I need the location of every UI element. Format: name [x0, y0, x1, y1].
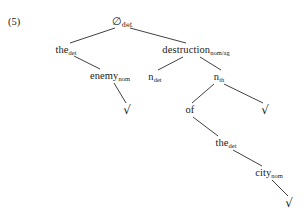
tree-node-ndet: ndet	[148, 72, 161, 83]
tree-node-city: citynom	[255, 168, 283, 179]
tree-edges-canvas	[0, 0, 305, 217]
node-base-text: city	[255, 167, 271, 178]
tree-node-nth: nth	[214, 72, 224, 83]
node-base-text: of	[186, 104, 195, 115]
tree-edge	[192, 84, 214, 103]
node-base-text: the	[215, 137, 228, 148]
tree-edge	[233, 150, 262, 166]
node-base-text: √	[285, 196, 293, 210]
tree-node-root: ∅det	[112, 16, 133, 27]
node-base-text: √	[261, 103, 269, 117]
tree-node-destruction: destructionnom/ag	[162, 45, 229, 56]
node-subscript-text: det	[154, 76, 162, 83]
tree-edge	[70, 28, 115, 43]
tree-edge	[130, 28, 186, 43]
node-base-text: √	[123, 103, 131, 117]
syntax-tree-figure: (5) ∅detthedetdestructionnom/agenemynomn…	[0, 0, 305, 217]
node-subscript-text: det	[122, 21, 133, 29]
tree-node-check2: √	[261, 104, 269, 116]
node-subscript-text: det	[69, 49, 77, 56]
node-base-text: enemy	[90, 70, 119, 81]
tree-edge	[158, 57, 183, 70]
node-base-text: destruction	[162, 44, 210, 55]
node-subscript-text: th	[219, 76, 224, 83]
tree-node-the1: thedet	[55, 45, 76, 56]
tree-edge	[74, 56, 100, 69]
node-base-text: the	[55, 44, 68, 55]
tree-edge	[200, 57, 221, 70]
tree-edge	[224, 84, 263, 103]
node-subscript-text: det	[229, 142, 237, 149]
node-base-text: ∅	[112, 15, 122, 28]
tree-node-check3: √	[285, 197, 293, 209]
tree-edge	[272, 180, 288, 196]
node-subscript-text: nom	[271, 172, 283, 179]
node-subscript-text: nom	[118, 75, 130, 82]
node-subscript-text: nom/ag	[210, 49, 230, 56]
tree-node-of: of	[186, 105, 195, 116]
tree-node-check1: √	[123, 104, 131, 116]
tree-edge	[114, 83, 126, 103]
tree-node-enemy: enemynom	[90, 71, 130, 82]
tree-node-the2: thedet	[215, 138, 236, 149]
tree-edge	[193, 117, 218, 136]
